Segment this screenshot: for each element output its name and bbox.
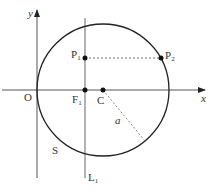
radius-a bbox=[103, 90, 145, 141]
origin-label: O bbox=[24, 91, 32, 103]
point-p1 bbox=[83, 56, 88, 61]
radius-label: a bbox=[115, 114, 121, 126]
circle-label: S bbox=[52, 144, 58, 156]
p2-label: P2 bbox=[165, 49, 175, 63]
y-axis-label: y bbox=[27, 7, 33, 19]
point-f1 bbox=[83, 88, 88, 93]
point-p2 bbox=[159, 56, 164, 61]
point-c bbox=[101, 88, 106, 93]
x-axis-label: x bbox=[200, 92, 206, 104]
center-label: C bbox=[97, 94, 104, 106]
line-label: L1 bbox=[88, 171, 99, 185]
focus-label: F1 bbox=[72, 93, 82, 107]
p1-label: P1 bbox=[71, 48, 81, 62]
geometry-diagram: y x O F1 C P1 P2 a S L1 bbox=[0, 0, 215, 193]
